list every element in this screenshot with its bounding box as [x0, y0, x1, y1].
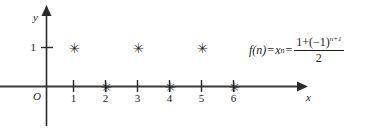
x-axis-arrowhead: [297, 82, 308, 92]
data-point-marker: ✳: [164, 81, 176, 94]
formula-fraction: 1+(−1)n+1 2: [294, 36, 343, 64]
figure-canvas: y x O 1 1 2 3 4 5 6 ✳ ✳ ✳ ✳ ✳ ✳ f(n)=xn=…: [0, 0, 365, 138]
origin-label: O: [33, 91, 41, 102]
x-tick-label-3: 3: [131, 93, 144, 104]
data-point-marker: ✳: [228, 81, 240, 94]
formula-numerator: 1+(−1)n+1: [294, 36, 343, 50]
formula-numerator-base: 1+(−1): [296, 35, 330, 49]
formula-equals-2: =: [284, 43, 293, 58]
y-axis-arrowhead: [42, 5, 52, 16]
x-tick-label-1: 1: [67, 93, 80, 104]
formula-annotation: f(n)=xn= 1+(−1)n+1 2: [249, 36, 344, 64]
data-point-marker: ✳: [68, 42, 80, 55]
data-point-marker: ✳: [196, 42, 208, 55]
x-tick-label-5: 5: [195, 93, 208, 104]
data-point-marker: ✳: [132, 42, 144, 55]
data-point-marker: ✳: [100, 81, 112, 94]
formula-equals-1: =: [266, 43, 275, 58]
formula-denominator: 2: [316, 51, 322, 65]
formula-numerator-exponent: n+1: [330, 35, 342, 43]
y-tick-label-1: 1: [22, 42, 36, 53]
y-axis-label: y: [33, 12, 38, 23]
x-axis-label: x: [306, 92, 311, 103]
axes-group: [0, 0, 365, 138]
